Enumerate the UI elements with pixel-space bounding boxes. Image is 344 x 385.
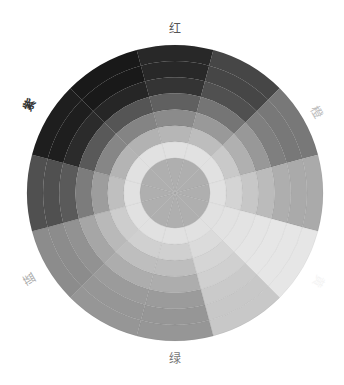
wheel-cell: [162, 142, 188, 159]
wheel-cell: [108, 176, 126, 211]
wheel-cell: [224, 176, 242, 211]
label-green: 绿: [169, 352, 181, 366]
wheel-cell: [240, 171, 258, 214]
wheel-cell: [162, 227, 188, 244]
color-wheel: [0, 0, 344, 385]
wheel-cell: [158, 242, 193, 260]
wheel-cell: [153, 110, 196, 128]
wheel-cell: [209, 180, 226, 206]
wheel-cell: [153, 258, 196, 276]
wheel-cell: [92, 171, 110, 214]
wheel-cell: [158, 126, 193, 144]
wheel-cell: [124, 180, 141, 206]
label-red: 红: [169, 22, 181, 36]
